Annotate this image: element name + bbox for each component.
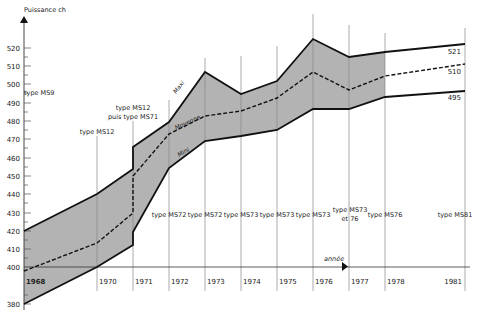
type-label-1972: type MS72 (152, 211, 187, 219)
type-label-1970: type MS12 (80, 128, 115, 136)
y-tick-480: 480 (7, 118, 20, 126)
y-tick-420: 420 (7, 228, 20, 236)
type-label-1971-line2: puis type MS71 (108, 113, 158, 121)
shaded-range-band (24, 39, 385, 304)
type-label-1976: type MS73 (296, 211, 331, 219)
y-tick-460: 460 (7, 155, 20, 163)
y-tick-510: 510 (7, 63, 20, 71)
year-1976: 1976 (315, 278, 333, 286)
power-chart: Puissance ch 520 510 500 490 480 470 460… (0, 0, 480, 316)
y-tick-430: 430 (7, 210, 20, 218)
y-tick-500: 500 (7, 81, 20, 89)
y-tick-400: 400 (7, 264, 20, 272)
type-label-1968: type MS9 (24, 89, 54, 97)
year-1973: 1973 (207, 278, 225, 286)
year-1978: 1978 (387, 278, 405, 286)
y-tick-520: 520 (7, 45, 20, 53)
y-tick-440: 440 (7, 191, 20, 199)
y-tick-490: 490 (7, 100, 20, 108)
type-label-1971-line1: type MS12 (116, 104, 151, 112)
y-tick-410: 410 (7, 246, 20, 254)
type-label-1977-line2: et 76 (342, 215, 359, 223)
year-1972: 1972 (171, 278, 189, 286)
end-value-moyenne: 510 (448, 68, 461, 76)
y-axis-arrow-icon (20, 16, 28, 23)
year-1977: 1977 (351, 278, 369, 286)
year-1975: 1975 (279, 278, 297, 286)
type-label-1981: type MS81 (438, 211, 473, 219)
year-1970: 1970 (99, 278, 117, 286)
end-value-maxi: 521 (448, 48, 461, 56)
year-1981: 1981 (444, 278, 462, 286)
year-1974: 1974 (243, 278, 261, 286)
type-label-1974: type MS73 (224, 211, 259, 219)
y-tick-380: 380 (7, 301, 20, 309)
year-1971: 1971 (135, 278, 153, 286)
year-1968: 1968 (26, 278, 46, 286)
series-label-maxi: Maxi (171, 79, 185, 95)
type-label-1975: type MS73 (260, 211, 295, 219)
y-tick-450: 450 (7, 173, 20, 181)
y-axis-title: Puissance ch (24, 6, 66, 14)
x-axis-arrow-icon (342, 262, 348, 271)
type-label-1978: type MS76 (368, 211, 403, 219)
x-axis-title: année (324, 255, 344, 263)
end-value-mini: 495 (448, 94, 461, 102)
type-label-1977-line1: type MS73 (333, 206, 368, 214)
type-label-1973: type MS72 (188, 211, 223, 219)
y-tick-470: 470 (7, 136, 20, 144)
